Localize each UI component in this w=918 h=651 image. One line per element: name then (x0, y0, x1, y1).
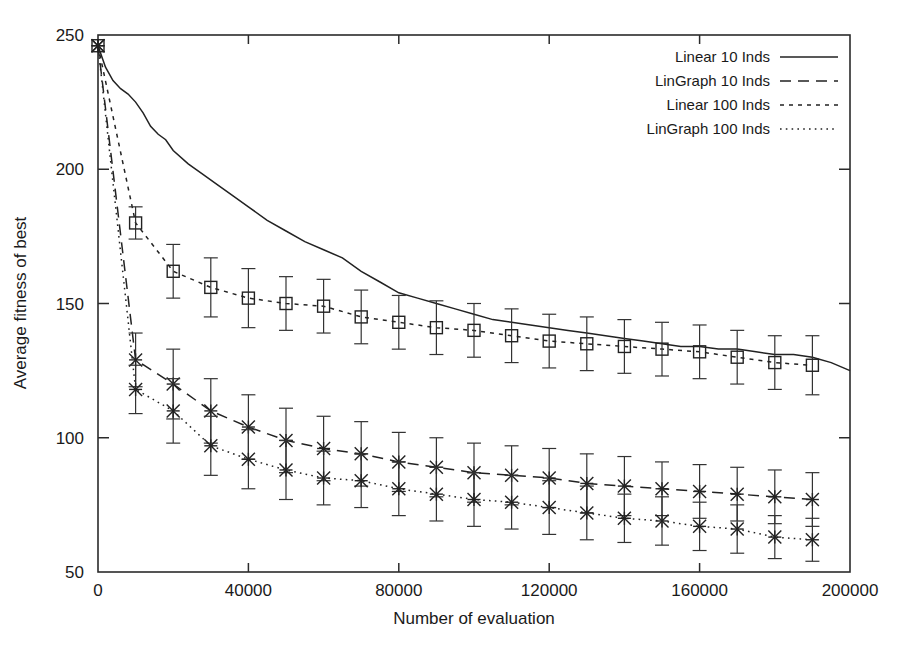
x-tick-label: 0 (93, 581, 102, 600)
data-point-marker (204, 404, 217, 417)
data-point-marker (618, 512, 631, 525)
data-point-marker (468, 493, 481, 506)
data-point-marker (768, 531, 781, 544)
x-tick-label: 120000 (521, 581, 578, 600)
legend-label-3: LinGraph 100 Inds (647, 120, 770, 137)
data-point-marker (693, 485, 706, 498)
data-point-marker (731, 488, 744, 501)
data-point-marker (806, 493, 819, 506)
data-point-marker (129, 353, 142, 366)
y-axis-label: Average fitness of best (11, 216, 30, 389)
chart-canvas: 04000080000120000160000200000 5010015020… (0, 0, 918, 651)
data-point-marker (618, 480, 631, 493)
data-point-marker (242, 453, 255, 466)
data-point-marker (92, 39, 105, 52)
data-point-marker (430, 488, 443, 501)
legend-label-1: LinGraph 10 Inds (655, 72, 770, 89)
data-point-marker (392, 482, 405, 495)
data-point-marker (129, 383, 142, 396)
y-tick-label: 150 (56, 295, 84, 314)
data-point-marker (505, 496, 518, 509)
x-tick-label: 40000 (225, 581, 272, 600)
chart-figure: 04000080000120000160000200000 5010015020… (0, 0, 918, 651)
legend-label-0: Linear 10 Inds (675, 48, 770, 65)
data-point-marker (280, 463, 293, 476)
y-tick-label: 50 (65, 563, 84, 582)
x-axis-label: Number of evaluation (393, 609, 555, 628)
data-point-marker (693, 520, 706, 533)
data-point-marker (580, 506, 593, 519)
data-point-marker (656, 482, 669, 495)
data-point-marker (806, 533, 819, 546)
data-point-marker (543, 501, 556, 514)
legend-label-2: Linear 100 Inds (667, 96, 770, 113)
y-tick-label: 100 (56, 429, 84, 448)
data-point-marker (167, 404, 180, 417)
data-point-marker (768, 490, 781, 503)
y-tick-label: 250 (56, 26, 84, 45)
y-tick-label: 200 (56, 160, 84, 179)
x-tick-label: 200000 (822, 581, 879, 600)
data-point-marker (317, 472, 330, 485)
data-point-marker (355, 474, 368, 487)
data-point-marker (204, 439, 217, 452)
x-tick-label: 160000 (671, 581, 728, 600)
data-point-marker (731, 523, 744, 536)
chart-background (0, 0, 918, 651)
x-tick-label: 80000 (375, 581, 422, 600)
data-point-marker (656, 514, 669, 527)
